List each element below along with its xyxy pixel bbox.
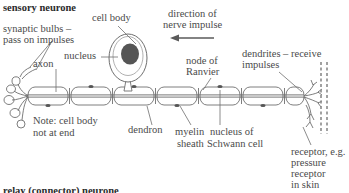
label-node-of-ranvier-line1: node of: [186, 55, 218, 67]
label-schwann-line2: Schwann cell: [207, 138, 263, 150]
label-dendrites-line1: dendrites – receive: [242, 48, 321, 60]
label-dendrites-line2: impulses: [242, 59, 279, 71]
label-receptor-line4: in skin: [291, 179, 319, 191]
label-note-line2: not at end: [33, 127, 74, 139]
label-myelin-line2: sheath: [177, 138, 204, 150]
page-title: sensory neurone: [3, 2, 76, 14]
label-receptor-line1: receptor, e.g.: [291, 146, 345, 158]
label-nucleus: nucleus: [64, 50, 96, 62]
label-synaptic-bulbs-line2: pass on impulses: [3, 34, 74, 46]
label-direction-line2: nerve impulse: [163, 19, 222, 31]
label-axon: axon: [33, 58, 53, 70]
label-node-of-ranvier-line2: Ranvier: [186, 66, 219, 78]
label-synaptic-bulbs-line1: synaptic bulbs –: [3, 23, 71, 35]
label-direction-line1: direction of: [168, 8, 217, 20]
bottom-partial-heading: relay (connector) neurone: [3, 185, 173, 193]
sensory-neurone-diagram: sensory neurone synaptic bulbs – pass on…: [0, 0, 349, 193]
label-receptor-line3: receptor: [291, 168, 325, 180]
label-dendron: dendron: [128, 124, 162, 136]
cell-body-nucleus: [121, 44, 139, 65]
label-cell-body: cell body: [92, 12, 131, 24]
cell-body: [109, 34, 147, 91]
label-receptor-line2: pressure: [291, 157, 326, 169]
skin-surface: [321, 62, 327, 134]
dendrites: [304, 80, 322, 128]
impulse-direction-arrow: [170, 35, 214, 42]
label-note-line1: Note: cell body: [33, 115, 98, 127]
label-myelin-line1: myelin: [175, 126, 204, 138]
label-schwann-line1: nucleus of: [210, 126, 253, 138]
